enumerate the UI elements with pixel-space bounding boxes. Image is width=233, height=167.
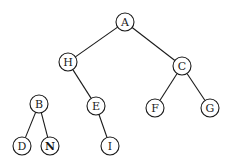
node-label: F: [151, 102, 159, 115]
edge-a-h: [75, 27, 117, 57]
node-label: N: [45, 140, 55, 153]
node-h: H: [59, 53, 77, 71]
edge-b-n: [41, 113, 47, 138]
node-label: B: [35, 98, 43, 111]
edge-e-i: [99, 114, 107, 137]
node-i: I: [101, 137, 119, 155]
node-e: E: [87, 97, 105, 115]
node-label: D: [18, 140, 27, 153]
node-label: C: [178, 60, 186, 73]
edge-c-g: [187, 73, 205, 100]
edges-layer: [25, 27, 205, 137]
node-c: C: [173, 57, 191, 75]
node-a: A: [116, 13, 134, 31]
node-b: B: [30, 95, 48, 113]
node-label: G: [206, 102, 215, 115]
node-f: F: [146, 99, 164, 117]
node-label: A: [120, 16, 130, 29]
nodes-layer: AHCBEFGDNI: [13, 13, 219, 155]
edge-h-e: [73, 70, 91, 99]
tree-diagram: AHCBEFGDNI: [0, 0, 233, 167]
node-label: I: [108, 140, 112, 153]
node-d: D: [13, 137, 31, 155]
node-label: E: [92, 100, 100, 113]
node-g: G: [201, 99, 219, 117]
node-n: N: [41, 137, 59, 155]
edge-c-f: [160, 74, 177, 101]
edge-a-c: [132, 27, 175, 60]
edge-b-d: [25, 112, 35, 137]
node-label: H: [63, 56, 73, 69]
